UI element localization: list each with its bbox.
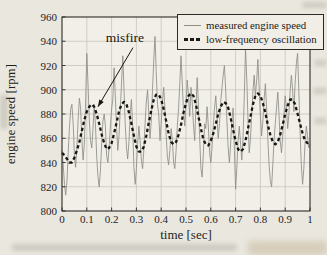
legend-item-measured: measured engine speed (178, 18, 323, 32)
x-axis-label: time [sec] (121, 227, 251, 243)
scan-bleed-artifact (0, 95, 8, 129)
legend-item-lowfreq: low-frequency oscillation (178, 32, 323, 46)
x-tick-label: 0.2 (105, 213, 119, 225)
legend-label-measured: measured engine speed (206, 19, 306, 31)
scan-smudge-artifact (248, 241, 327, 255)
x-tick-label: 0.1 (80, 213, 94, 225)
misfire-annotation-text: misfire (106, 30, 144, 45)
y-tick-label: 860 (41, 132, 58, 144)
y-tick-label: 900 (41, 84, 58, 96)
x-tick-label: 0.7 (229, 213, 243, 225)
x-tick-label: 0.6 (204, 213, 218, 225)
x-tick-label: 0 (59, 213, 65, 225)
y-tick-label: 840 (41, 157, 58, 169)
scan-bleed-artifact (314, 60, 327, 66)
y-tick-label: 800 (41, 205, 58, 217)
engine-speed-figure: 00.10.20.30.40.50.60.70.80.9180082084086… (0, 0, 327, 255)
y-tick-label: 960 (41, 11, 58, 23)
x-tick-label: 1 (307, 213, 313, 225)
y-tick-label: 880 (41, 108, 58, 120)
scan-bleed-artifact (313, 88, 327, 94)
x-tick-label: 0.8 (254, 213, 268, 225)
x-tick-label: 0.3 (130, 213, 144, 225)
scan-bleed-artifact (314, 118, 327, 124)
y-tick-label: 920 (41, 60, 58, 72)
y-tick-label: 940 (41, 35, 58, 47)
y-tick-label: 820 (41, 181, 58, 193)
solid-line-sample-icon (184, 25, 201, 26)
legend: measured engine speed low-frequency osci… (177, 14, 324, 50)
scan-bleed-artifact (12, 244, 237, 251)
scan-bleed-artifact (302, 2, 327, 8)
legend-label-lowfreq: low-frequency oscillation (206, 33, 317, 45)
dashed-line-sample-icon (184, 38, 201, 41)
x-tick-label: 0.5 (179, 213, 193, 225)
x-tick-label: 0.9 (278, 213, 292, 225)
x-tick-label: 0.4 (154, 213, 168, 225)
